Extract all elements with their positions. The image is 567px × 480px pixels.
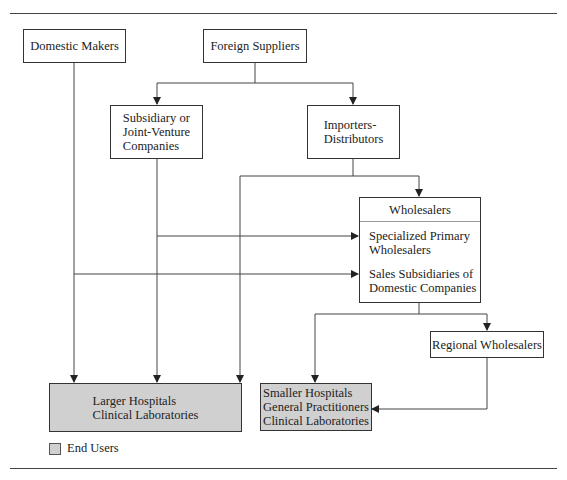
- node-label: Regional Wholesalers: [432, 338, 542, 352]
- legend-swatch-icon: [49, 443, 61, 455]
- node-regional-wholesalers: Regional Wholesalers: [430, 331, 544, 358]
- wholesalers-title: Wholesalers: [360, 198, 480, 222]
- wholesalers-item-sales-subsidiaries: Sales Subsidiaries of Domestic Companies: [360, 267, 480, 295]
- node-importers-distributors: Importers- Distributors: [307, 105, 400, 159]
- node-larger-hospitals: Larger Hospitals Clinical Laboratories: [49, 383, 242, 432]
- node-label: Importers- Distributors: [324, 118, 384, 146]
- node-foreign-suppliers: Foreign Suppliers: [203, 29, 307, 63]
- node-subsidiary-companies: Subsidiary or Joint-Venture Companies: [110, 105, 203, 159]
- node-smaller-hospitals: Smaller Hospitals General Practitioners …: [260, 383, 372, 431]
- node-label: Larger Hospitals Clinical Laboratories: [93, 394, 199, 422]
- node-label: Foreign Suppliers: [210, 39, 299, 53]
- node-label: Domestic Makers: [30, 39, 119, 53]
- legend: End Users: [49, 441, 119, 456]
- node-wholesalers: Wholesalers Specialized Primary Wholesal…: [359, 197, 481, 303]
- node-domestic-makers: Domestic Makers: [23, 29, 126, 63]
- legend-label: End Users: [67, 441, 119, 456]
- node-label: Smaller Hospitals General Practitioners …: [263, 386, 369, 428]
- wholesalers-item-specialized: Specialized Primary Wholesalers: [360, 229, 480, 257]
- node-label: Subsidiary or Joint-Venture Companies: [123, 111, 190, 153]
